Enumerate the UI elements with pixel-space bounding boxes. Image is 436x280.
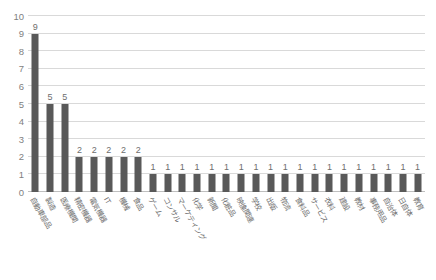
x-tick-slot: ゲーム [146, 194, 161, 264]
x-tick-label: 新聞 [205, 196, 218, 212]
x-tick-slot: 食料品 [293, 194, 308, 264]
bar[interactable] [311, 174, 318, 192]
x-tick-slot: 自動車部品 [28, 194, 43, 264]
y-tick-label: 10 [13, 11, 24, 21]
bar[interactable] [149, 174, 156, 192]
x-tick-label: 衣料 [323, 196, 336, 212]
bar-value-label: 1 [327, 163, 332, 172]
bar-value-label: 2 [121, 146, 126, 155]
bar[interactable] [120, 157, 127, 192]
bar[interactable] [267, 174, 274, 192]
x-tick-slot: 化粧品 [219, 194, 234, 264]
x-tick-label: 化学 [191, 196, 204, 212]
x-tick-slot: 電気機器 [87, 194, 102, 264]
x-tick-slot: 製造 [43, 194, 58, 264]
bar-slot[interactable]: 1 [322, 16, 337, 192]
bar-slot[interactable]: 1 [219, 16, 234, 192]
bar[interactable] [355, 174, 362, 192]
bar[interactable] [179, 174, 186, 192]
bar-slot[interactable]: 1 [381, 16, 396, 192]
bar-slot[interactable]: 1 [351, 16, 366, 192]
bar-slot[interactable]: 2 [102, 16, 117, 192]
bar-value-label: 2 [77, 146, 82, 155]
bar[interactable] [341, 174, 348, 192]
bar-slot[interactable]: 1 [160, 16, 175, 192]
bar[interactable] [61, 104, 68, 192]
bar[interactable] [238, 174, 245, 192]
bar-slot[interactable]: 5 [43, 16, 58, 192]
bar-slot[interactable]: 2 [87, 16, 102, 192]
bar-value-label: 1 [224, 163, 229, 172]
bar[interactable] [32, 34, 39, 192]
bar-slot[interactable]: 1 [396, 16, 411, 192]
bar[interactable] [385, 174, 392, 192]
x-tick-slot: 建設 [337, 194, 352, 264]
y-tick-label: 3 [19, 134, 24, 144]
bar-slot[interactable]: 2 [72, 16, 87, 192]
x-tick-slot: 物流 [278, 194, 293, 264]
bar-slot[interactable]: 1 [146, 16, 161, 192]
bar-value-label: 9 [33, 23, 38, 32]
bar-series: 955222221111111111111111111 [28, 16, 425, 192]
x-tick-label: 食品 [132, 196, 145, 212]
bar-slot[interactable]: 2 [116, 16, 131, 192]
bar[interactable] [194, 174, 201, 192]
bar-slot[interactable]: 1 [366, 16, 381, 192]
bar[interactable] [47, 104, 54, 192]
y-tick-label: 1 [19, 170, 24, 180]
bar[interactable] [105, 157, 112, 192]
x-tick-slot: 医療機関 [57, 194, 72, 264]
x-tick-label: 教育 [411, 196, 424, 212]
bar[interactable] [326, 174, 333, 192]
bar-slot[interactable]: 1 [204, 16, 219, 192]
bar-slot[interactable]: 1 [249, 16, 264, 192]
bar[interactable] [164, 174, 171, 192]
x-tick-slot: コンサル [160, 194, 175, 264]
x-tick-slot: 精密機器 [72, 194, 87, 264]
bar-value-label: 1 [342, 163, 347, 172]
bar-slot[interactable]: 1 [337, 16, 352, 192]
bar[interactable] [208, 174, 215, 192]
bar[interactable] [252, 174, 259, 192]
bar-value-label: 1 [312, 163, 317, 172]
bar-slot[interactable]: 1 [234, 16, 249, 192]
bar-slot[interactable]: 2 [131, 16, 146, 192]
y-tick-label: 7 [19, 64, 24, 74]
y-tick-label: 9 [19, 29, 24, 39]
bar-value-label: 1 [253, 163, 258, 172]
x-tick-slot: 教育 [410, 194, 425, 264]
x-tick-slot: 衣料 [322, 194, 337, 264]
bar-slot[interactable]: 1 [190, 16, 205, 192]
bar-slot[interactable]: 1 [307, 16, 322, 192]
bar-value-label: 1 [297, 163, 302, 172]
bar[interactable] [414, 174, 421, 192]
bar[interactable] [135, 157, 142, 192]
bar-value-label: 1 [283, 163, 288, 172]
bar-slot[interactable]: 9 [28, 16, 43, 192]
y-tick-label: 0 [19, 187, 24, 197]
bar-value-label: 1 [415, 163, 420, 172]
x-tick-slot: 機械 [116, 194, 131, 264]
bar[interactable] [282, 174, 289, 192]
bar-slot[interactable]: 1 [293, 16, 308, 192]
bar-slot[interactable]: 1 [410, 16, 425, 192]
x-tick-label: 建設 [338, 196, 351, 212]
bar[interactable] [76, 157, 83, 192]
x-tick-label: 学校 [249, 196, 262, 212]
bar[interactable] [91, 157, 98, 192]
x-tick-slot: 自治体 [381, 194, 396, 264]
bar-slot[interactable]: 5 [57, 16, 72, 192]
bar-slot[interactable]: 1 [175, 16, 190, 192]
bar[interactable] [370, 174, 377, 192]
bar-value-label: 1 [371, 163, 376, 172]
bar-value-label: 1 [150, 163, 155, 172]
bar-slot[interactable]: 1 [278, 16, 293, 192]
x-tick-slot: 日自体 [396, 194, 411, 264]
bar-slot[interactable]: 1 [263, 16, 278, 192]
bar[interactable] [223, 174, 230, 192]
bar-value-label: 1 [386, 163, 391, 172]
x-axis-labels: 自動車部品製造医療機関精密機器電気機器IT機械食品ゲームコンサルマーケティング化… [28, 194, 425, 264]
bar[interactable] [297, 174, 304, 192]
bar[interactable] [399, 174, 406, 192]
x-tick-slot: 映像関連 [234, 194, 249, 264]
